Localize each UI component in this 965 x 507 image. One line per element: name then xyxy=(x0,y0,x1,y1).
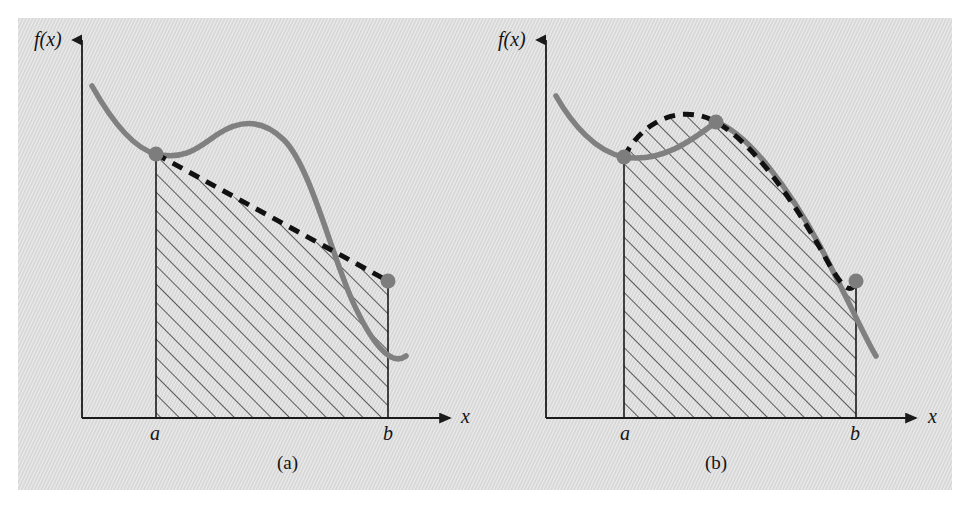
figure-root: f(x) x a b (a) f(x) x a b (b) xyxy=(0,0,965,507)
panel-a-tick-label-a: a xyxy=(150,422,160,445)
panel-b-caption: (b) xyxy=(705,452,727,474)
panel-a-y-axis-label: f(x) xyxy=(34,28,62,51)
panel-b-x-axis-label: x xyxy=(928,405,937,428)
panel-a-x-axis-label: x xyxy=(461,405,470,428)
panel-a-point-at-b xyxy=(381,274,396,289)
figure-artwork xyxy=(0,0,965,507)
panel-b-point-middle xyxy=(709,115,724,130)
panel-b-point-at-b xyxy=(849,274,864,289)
panel-b-tick-label-b: b xyxy=(850,422,860,445)
panel-a xyxy=(82,40,450,430)
panel-b-point-at-a xyxy=(617,150,632,165)
panel-a-point-at-a xyxy=(149,147,164,162)
panel-b-y-axis-label: f(x) xyxy=(498,28,526,51)
panel-b xyxy=(546,40,916,430)
panel-a-shaded-region xyxy=(140,130,410,430)
panel-b-shaded-region xyxy=(610,95,880,430)
panel-b-tick-label-a: a xyxy=(620,422,630,445)
panel-a-caption: (a) xyxy=(277,452,298,474)
panel-a-tick-label-b: b xyxy=(383,422,393,445)
